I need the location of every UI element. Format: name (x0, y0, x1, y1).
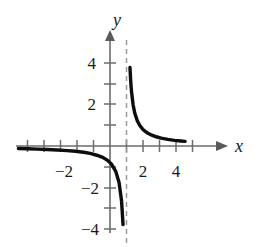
y-axis-arrowhead (105, 30, 115, 41)
y-tick-label--4: −4 (81, 220, 100, 239)
x-axis-label: x (234, 136, 243, 156)
x-tick-label-2: 2 (139, 162, 148, 181)
x-axis-arrowhead (216, 141, 228, 151)
graph-figure: −2 2 4 4 2 −2 −4 x y (0, 0, 266, 247)
y-tick-label--2: −2 (81, 179, 99, 198)
y-tick-label-2: 2 (88, 95, 97, 114)
x-tick-label-4: 4 (172, 162, 181, 181)
curve-left-branch (18, 148, 123, 224)
curve-right-branch (130, 67, 185, 141)
x-tick-label--2: −2 (55, 162, 73, 181)
y-axis-label: y (111, 10, 121, 30)
y-tick-label-4: 4 (88, 54, 97, 73)
coordinate-plane: −2 2 4 4 2 −2 −4 x y (0, 0, 266, 247)
